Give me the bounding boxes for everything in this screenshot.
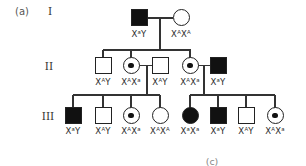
- genIII-drop-5: [189, 95, 190, 108]
- person-II3-male-symbol: [152, 57, 169, 74]
- genIII-drop-2: [102, 95, 103, 108]
- person-III3-carrier-female-symbol: [123, 107, 140, 124]
- generation-label-II: II: [41, 61, 57, 72]
- person-III2-male-symbol: [95, 107, 112, 124]
- genIII-sibship-line-right: [190, 94, 275, 95]
- genIII-sibship-line-left: [73, 94, 160, 95]
- person-III4-female-symbol: [152, 107, 169, 124]
- genotype-label-I1: XᵃY: [117, 29, 161, 39]
- genotype-label-I2: XᴬXᴬ: [159, 29, 203, 39]
- person-I1-affected-male-symbol: [131, 9, 148, 26]
- genIII-drop-8: [274, 95, 275, 108]
- pedigree-diagram: (a) I II III (c) XᵃY XᴬXᴬ XᴬY XᴬXᵃ XᴬY X…: [0, 0, 306, 166]
- carrier-dot-icon: [187, 63, 193, 69]
- panel-label-a: (a): [15, 6, 29, 17]
- genIII-drop-1: [72, 95, 73, 108]
- carrier-dot-icon: [272, 113, 278, 119]
- person-II4-carrier-female-symbol: [182, 57, 199, 74]
- person-I2-female-symbol: [173, 9, 190, 26]
- person-II5-affected-male-symbol: [210, 57, 227, 74]
- genIII-drop-3: [130, 95, 131, 108]
- generation-label-I: I: [42, 6, 58, 17]
- person-III6-affected-male-symbol: [210, 107, 227, 124]
- bottom-label-c: (c): [200, 156, 224, 166]
- genotype-label-II5: XᵃY: [196, 77, 240, 87]
- genII-sibship-line: [103, 49, 191, 50]
- person-II2-carrier-female-symbol: [123, 57, 140, 74]
- genIII-drop-6: [217, 95, 218, 108]
- genIII-drop-7: [245, 95, 246, 108]
- person-III5-affected-female-symbol: [182, 107, 199, 124]
- person-II1-male-symbol: [95, 57, 112, 74]
- person-III8-carrier-female-symbol: [267, 107, 284, 124]
- person-III7-male-symbol: [238, 107, 255, 124]
- carrier-dot-icon: [128, 113, 134, 119]
- carrier-dot-icon: [128, 63, 134, 69]
- genIII-drop-4: [159, 95, 160, 108]
- person-III1-affected-male-symbol: [65, 107, 82, 124]
- genotype-label-III8: XᴬXᵃ: [253, 126, 297, 136]
- generation-label-III: III: [40, 111, 56, 122]
